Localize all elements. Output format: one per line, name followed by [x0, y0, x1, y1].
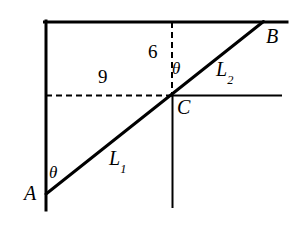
segment-label-l1-base: L — [109, 147, 120, 169]
segment-label-l2: L2 — [216, 59, 233, 83]
figure-canvas — [0, 0, 296, 228]
segment-label-l1-subscript: 1 — [120, 162, 126, 176]
point-label-C: C — [177, 97, 190, 117]
segment-label-l2-base: L — [216, 58, 227, 80]
segment-label-l1: L1 — [109, 148, 126, 172]
angle-label-theta-at-a: θ — [49, 164, 57, 181]
segment-label-l2-subscript: 2 — [227, 73, 233, 87]
measure-label-vertical: 6 — [148, 42, 158, 61]
geometry-figure: A B C 9 6 θ θ L1 L2 — [0, 0, 296, 228]
point-label-A: A — [24, 183, 36, 203]
measure-label-horizontal: 9 — [98, 67, 108, 86]
angle-label-theta-at-c: θ — [172, 60, 180, 77]
point-label-B: B — [266, 26, 278, 46]
